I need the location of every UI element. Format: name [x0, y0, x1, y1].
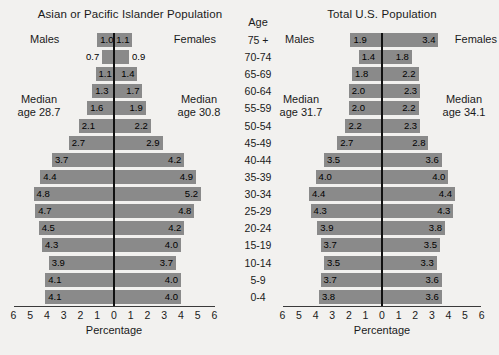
bar-males: 1.9 [350, 33, 382, 47]
bar-males: 2.0 [349, 84, 382, 98]
bar-males: 3.8 [319, 290, 382, 304]
bar-value-females: 3.6 [426, 153, 439, 167]
bar-males: 3.5 [324, 256, 382, 270]
bar-value-males: 1.8 [355, 67, 368, 81]
bar-value-females: 2.9 [146, 136, 159, 150]
bar-value-males: 3.7 [55, 153, 68, 167]
bar-value-females: 4.4 [439, 187, 452, 201]
x-axis-caption: Percentage [0, 324, 234, 336]
bar-males: 2.0 [349, 101, 382, 115]
bar-value-females: 1.8 [396, 50, 409, 64]
bar-value-females: 4.9 [180, 170, 193, 184]
bar-value-males: 3.9 [52, 256, 65, 270]
bar-value-males: 4.4 [43, 170, 56, 184]
bar-value-males: 4.1 [48, 273, 61, 287]
bar-value-males: 3.5 [327, 256, 340, 270]
bar-females: 1.7 [114, 84, 142, 98]
x-axis-tick-label: 4 [445, 309, 451, 321]
pyramid-row: 0.70.9 [102, 50, 129, 64]
bar-value-females: 1.7 [126, 84, 139, 98]
pyramid-row: 3.74.2 [52, 153, 184, 167]
bar-value-males: 3.5 [327, 153, 340, 167]
x-axis-tick-label: 4 [313, 309, 319, 321]
bar-males: 0.7 [102, 50, 114, 64]
bar-females: 2.2 [382, 67, 419, 81]
bar-females: 3.6 [382, 273, 442, 287]
bar-value-females: 4.8 [178, 204, 191, 218]
pyramid-row: 2.72.8 [337, 136, 428, 150]
bar-females: 4.4 [382, 187, 455, 201]
bar-females: 4.0 [114, 273, 181, 287]
bar-males: 2.1 [79, 119, 114, 133]
bar-value-males: 4.3 [314, 204, 327, 218]
bar-value-females: 1.9 [130, 101, 143, 115]
x-axis-tick-label: 1 [362, 309, 368, 321]
bar-females: 3.6 [382, 153, 442, 167]
bar-value-males: 2.0 [352, 101, 365, 115]
center-axis-line [113, 33, 114, 306]
bar-value-females: 4.0 [165, 290, 178, 304]
x-axis-tick-label: 5 [296, 309, 302, 321]
bar-males: 4.8 [34, 187, 114, 201]
bar-females: 3.5 [382, 238, 440, 252]
x-axis-tick-label: 4 [178, 309, 184, 321]
bar-males: 3.7 [321, 273, 382, 287]
bar-value-females: 2.2 [402, 67, 415, 81]
bar-females: 3.8 [382, 221, 445, 235]
bar-value-females: 4.2 [168, 153, 181, 167]
bar-value-males: 2.7 [72, 136, 85, 150]
bar-females: 4.3 [382, 204, 453, 218]
pyramid-row: 2.02.2 [349, 101, 419, 115]
bar-value-females: 0.9 [132, 50, 145, 64]
bar-males: 4.3 [311, 204, 382, 218]
bar-females: 1.9 [114, 101, 146, 115]
population-pyramid-figure: Asian or Pacific Islander Population Mal… [0, 0, 499, 355]
bar-value-females: 3.8 [429, 221, 442, 235]
x-axis-tick-label: 0 [111, 309, 117, 321]
bar-females: 4.0 [114, 238, 181, 252]
x-axis-tick-label: 5 [27, 309, 33, 321]
bar-value-males: 2.0 [352, 84, 365, 98]
x-axis-tick-label: 6 [212, 309, 218, 321]
bar-value-males: 3.7 [324, 273, 337, 287]
x-axis-tick-label: 3 [329, 309, 335, 321]
pyramid-row: 2.72.9 [69, 136, 163, 150]
bar-value-males: 4.3 [45, 238, 58, 252]
bar-females: 0.9 [114, 50, 129, 64]
x-axis-tick-label: 5 [195, 309, 201, 321]
x-axis-tick-label: 3 [161, 309, 167, 321]
bar-value-females: 4.0 [165, 238, 178, 252]
bar-value-females: 3.4 [422, 33, 435, 47]
pyramid-row: 2.12.2 [79, 119, 151, 133]
bar-value-males: 3.7 [324, 238, 337, 252]
bar-value-males: 1.0 [100, 33, 113, 47]
bar-value-females: 3.3 [421, 256, 434, 270]
bar-males: 1.8 [352, 67, 382, 81]
x-axis-tick-label: 1 [94, 309, 100, 321]
plot-area: 1.93.41.41.81.82.22.02.32.02.22.22.32.72… [265, 0, 499, 355]
center-axis-line [381, 33, 382, 306]
x-axis-tick-label: 0 [379, 309, 385, 321]
bar-value-females: 2.2 [135, 119, 148, 133]
x-axis-tick-label: 4 [44, 309, 50, 321]
panel-asian-pacific-islander: Asian or Pacific Islander Population Mal… [0, 0, 250, 355]
pyramid-row: 1.93.4 [350, 33, 438, 47]
bar-value-males: 1.1 [99, 67, 112, 81]
bar-value-males: 2.2 [348, 119, 361, 133]
bar-value-males: 1.6 [90, 101, 103, 115]
bar-males: 4.0 [316, 170, 382, 184]
bar-value-males: 1.3 [95, 84, 108, 98]
x-axis-tick-label: 3 [429, 309, 435, 321]
bar-value-females: 1.4 [121, 67, 134, 81]
pyramid-row: 4.85.2 [34, 187, 202, 201]
x-axis-line [283, 306, 481, 307]
x-axis-tick-label: 5 [462, 309, 468, 321]
bar-males: 4.1 [45, 290, 114, 304]
bar-value-males: 1.9 [353, 33, 366, 47]
bar-value-females: 4.0 [165, 273, 178, 287]
bar-males: 3.9 [317, 221, 382, 235]
x-axis-tick-label: 1 [396, 309, 402, 321]
bar-females: 2.3 [382, 84, 420, 98]
x-axis-line [14, 306, 215, 307]
bar-value-males: 0.7 [86, 50, 99, 64]
